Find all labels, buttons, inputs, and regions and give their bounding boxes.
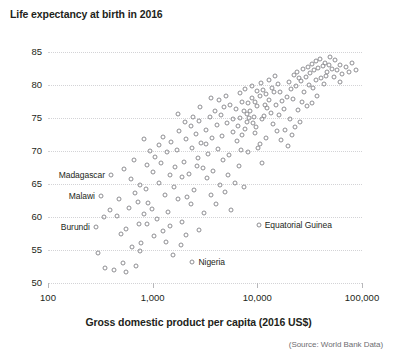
- data-point: [216, 97, 221, 102]
- data-point: [192, 187, 197, 192]
- data-point: [160, 228, 165, 233]
- data-point: [176, 196, 181, 201]
- data-point: [303, 75, 308, 80]
- data-point: [109, 173, 114, 178]
- data-point: [297, 119, 302, 124]
- data-point: [257, 94, 262, 99]
- y-tick-label: 80: [14, 79, 42, 90]
- y-tick-label: 65: [14, 178, 42, 189]
- data-point: [139, 240, 144, 245]
- data-point: [117, 196, 122, 201]
- data-point: [337, 62, 342, 67]
- data-point: [285, 143, 290, 148]
- point-annotation-label: Burundi: [61, 222, 90, 232]
- data-point: [332, 57, 337, 62]
- data-point: [190, 259, 195, 264]
- data-point: [158, 160, 163, 165]
- data-point: [208, 193, 213, 198]
- data-point: [321, 81, 326, 86]
- data-point: [167, 173, 172, 178]
- data-point: [198, 105, 203, 110]
- data-point: [283, 127, 288, 132]
- data-point: [176, 112, 181, 117]
- data-point: [260, 88, 265, 93]
- source-note: (Source: World Bank Data): [289, 340, 383, 349]
- y-gridline: [48, 217, 362, 218]
- data-point: [231, 117, 236, 122]
- data-point: [207, 115, 212, 120]
- data-point: [240, 132, 245, 137]
- scatter-chart-figure: Life expectancy at birth in 2016 8580757…: [0, 0, 397, 362]
- data-point: [154, 216, 159, 221]
- data-point: [338, 80, 343, 85]
- data-point: [275, 129, 280, 134]
- data-point: [237, 90, 242, 95]
- data-point: [289, 86, 294, 91]
- data-point: [266, 77, 271, 82]
- data-point: [221, 157, 226, 162]
- data-point: [151, 234, 156, 239]
- data-point: [204, 176, 209, 181]
- y-tick-label: 75: [14, 112, 42, 123]
- data-point: [213, 201, 218, 206]
- data-point: [211, 169, 216, 174]
- data-point: [238, 116, 243, 121]
- data-point: [194, 131, 199, 136]
- data-point: [243, 126, 248, 131]
- y-gridline: [48, 283, 362, 284]
- x-tick-label: 10,000: [243, 292, 272, 303]
- data-point: [200, 166, 205, 171]
- data-point: [128, 176, 133, 181]
- data-point: [254, 88, 259, 93]
- data-point: [134, 263, 139, 268]
- data-point: [228, 102, 233, 107]
- data-point: [228, 208, 233, 213]
- data-point: [227, 152, 232, 157]
- data-point: [343, 64, 348, 69]
- y-tick-label: 70: [14, 145, 42, 156]
- data-point: [138, 248, 143, 253]
- data-point: [145, 221, 150, 226]
- data-point: [340, 72, 345, 77]
- data-point: [177, 129, 182, 134]
- data-point: [144, 162, 149, 167]
- data-point: [121, 167, 126, 172]
- data-point: [273, 102, 278, 107]
- data-point: [259, 160, 264, 165]
- data-point: [236, 123, 241, 128]
- data-point: [237, 163, 242, 168]
- data-point: [144, 187, 149, 192]
- data-point: [223, 93, 228, 98]
- data-point: [138, 182, 143, 187]
- data-point: [168, 224, 173, 229]
- data-point: [314, 94, 319, 99]
- data-point: [184, 232, 189, 237]
- data-point: [148, 149, 153, 154]
- data-point: [249, 96, 254, 101]
- data-point: [263, 135, 268, 140]
- y-gridline: [48, 52, 362, 53]
- y-tick-label: 60: [14, 211, 42, 222]
- data-point: [276, 112, 281, 117]
- data-point: [164, 240, 169, 245]
- data-point: [179, 175, 184, 180]
- data-point: [304, 104, 309, 109]
- data-point: [194, 163, 199, 168]
- data-point: [331, 75, 336, 80]
- data-point: [174, 147, 179, 152]
- data-point: [267, 97, 272, 102]
- data-point: [149, 207, 154, 212]
- data-point: [170, 253, 175, 258]
- data-point: [107, 208, 112, 213]
- data-point: [130, 245, 135, 250]
- data-point: [208, 96, 213, 101]
- data-point: [293, 125, 298, 130]
- data-point: [210, 136, 215, 141]
- data-point: [173, 164, 178, 169]
- data-point: [220, 133, 225, 138]
- data-point: [186, 172, 191, 177]
- data-point: [246, 150, 251, 155]
- data-point: [294, 84, 299, 89]
- y-gridline: [48, 184, 362, 185]
- data-point: [214, 122, 219, 127]
